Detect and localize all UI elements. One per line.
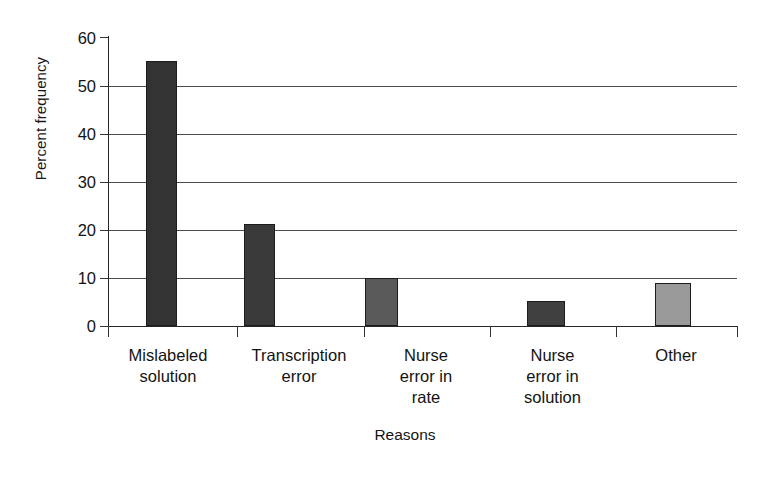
x-category-label-line: Nurse [363, 345, 489, 366]
x-category-label-line: solution [489, 387, 616, 408]
x-axis-title: Reasons [0, 426, 770, 444]
gridline-20 [108, 230, 737, 231]
x-category-label-line: error [231, 366, 367, 387]
x-category-label-line: Mislabeled [100, 345, 236, 366]
x-category-label-line: solution [100, 366, 236, 387]
gridline-10 [108, 278, 737, 279]
x-category-label-line: error in [363, 366, 489, 387]
y-tick-label-30: 30 [52, 174, 96, 191]
bar-transcription-error [244, 224, 275, 326]
x-category-label-line: error in [489, 366, 616, 387]
x-tick-mark-4 [616, 326, 617, 337]
gridline-30 [108, 182, 737, 183]
x-category-label-other: Other [615, 345, 737, 366]
bar-nurse-error-in-solution [527, 301, 565, 326]
x-axis-line [108, 326, 738, 327]
gridline-40 [108, 134, 737, 135]
x-category-label-line: Transcription [231, 345, 367, 366]
y-axis-line [108, 36, 109, 327]
x-tick-mark-5 [737, 326, 738, 337]
x-tick-mark-2 [364, 326, 365, 337]
y-tick-label-10: 10 [52, 270, 96, 287]
y-tick-label-20: 20 [52, 222, 96, 239]
x-category-label-nurse-error-in-rate: Nurse error in rate [363, 345, 489, 408]
y-axis-title: Percent frequency [32, 9, 49, 229]
x-tick-mark-1 [237, 326, 238, 337]
y-tick-label-60: 60 [52, 30, 96, 47]
x-category-label-line: Nurse [489, 345, 616, 366]
x-category-label-mislabeled-solution: Mislabeled solution [100, 345, 236, 387]
x-category-label-line: rate [363, 387, 489, 408]
x-category-label-line: Other [615, 345, 737, 366]
gridline-50 [108, 86, 737, 87]
plot-area [108, 37, 737, 326]
y-tick-label-50: 50 [52, 78, 96, 95]
x-tick-mark-3 [490, 326, 491, 337]
y-tick-label-40: 40 [52, 126, 96, 143]
x-category-label-transcription-error: Transcription error [231, 345, 367, 387]
bar-other [655, 283, 691, 326]
y-tick-label-0: 0 [52, 318, 96, 335]
bar-chart: Percent frequency 60 50 40 30 20 10 0 Mi… [0, 0, 770, 477]
x-tick-mark-0 [108, 326, 109, 337]
x-category-label-nurse-error-in-solution: Nurse error in solution [489, 345, 616, 408]
bar-mislabeled-solution [146, 61, 177, 326]
bar-nurse-error-in-rate [365, 278, 398, 326]
